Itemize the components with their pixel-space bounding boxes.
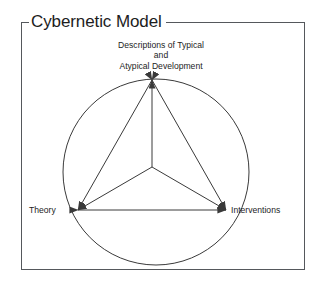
node-label-top: Descriptions of Typical and Atypical Dev…: [0, 40, 322, 71]
edge-top-left: [78, 80, 152, 210]
outer-circle: [63, 79, 249, 265]
node-label-top-line3: Atypical Development: [0, 61, 322, 71]
cybernetic-model-figure: Cybernetic Model Descriptions of Typical…: [0, 0, 322, 283]
node-label-top-line1: Descriptions of Typical: [0, 40, 322, 50]
spoke-hub-right: [152, 167, 226, 210]
node-label-interventions: Interventions: [231, 205, 280, 215]
node-label-theory: Theory: [29, 205, 56, 215]
node-label-top-line2: and: [0, 50, 322, 60]
spoke-hub-left: [78, 167, 152, 210]
